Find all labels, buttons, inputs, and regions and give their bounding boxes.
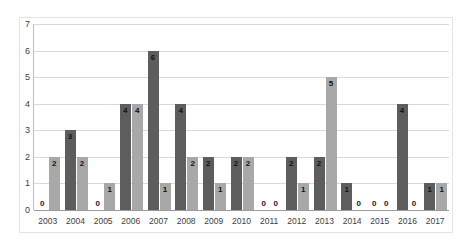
bar-value-label: 1 [160, 186, 171, 194]
bar-series-2-2013[interactable] [326, 77, 337, 210]
bar-group: 40 [396, 24, 420, 210]
x-axis: 2003200420052006200720082009201020112012… [34, 212, 449, 232]
bar-value-label: 1 [298, 186, 309, 194]
x-tick-label-2008: 2008 [173, 216, 200, 226]
plot-area: 023201446142212200212510004011 [34, 24, 449, 210]
bar-value-label: 3 [65, 133, 76, 141]
bar-group: 10 [340, 24, 364, 210]
bar-series-1-2016[interactable] [397, 104, 408, 210]
bar-value-label: 4 [397, 107, 408, 115]
bar-group: 01 [91, 24, 115, 210]
x-tick-label-2010: 2010 [228, 216, 255, 226]
y-tick-label: 5 [8, 73, 30, 82]
x-tick-label-2014: 2014 [339, 216, 366, 226]
bar-series-2-2006[interactable] [132, 104, 143, 210]
bars-layer: 023201446142212200212510004011 [34, 24, 449, 210]
bar-series-1-2007[interactable] [148, 51, 159, 210]
x-tick-label-2003: 2003 [34, 216, 61, 226]
bar-value-label: 2 [243, 160, 254, 168]
bar-value-label: 2 [286, 160, 297, 168]
bar-value-label: 0 [353, 200, 364, 208]
x-tick-label-2015: 2015 [366, 216, 393, 226]
bar-value-label: 2 [77, 160, 88, 168]
y-tick-label: 6 [8, 47, 30, 56]
bar-value-label: 4 [175, 107, 186, 115]
y-axis: 01234567 [4, 24, 30, 210]
bar-group: 02 [36, 24, 60, 210]
bar-value-label: 1 [424, 186, 435, 194]
bar-group: 61 [147, 24, 171, 210]
bar-group: 42 [174, 24, 198, 210]
y-tick-label: 2 [8, 153, 30, 162]
bar-series-1-2008[interactable] [175, 104, 186, 210]
bar-chart: 01234567 023201446142212200212510004011 … [0, 0, 467, 249]
bar-value-label: 1 [104, 186, 115, 194]
bar-group: 00 [368, 24, 392, 210]
bar-value-label: 2 [231, 160, 242, 168]
y-tick-label: 1 [8, 179, 30, 188]
bar-group: 32 [64, 24, 88, 210]
bar-value-label: 1 [436, 186, 447, 194]
x-tick-label-2005: 2005 [90, 216, 117, 226]
x-tick-label-2007: 2007 [145, 216, 172, 226]
y-tick-label: 4 [8, 100, 30, 109]
x-tick-label-2013: 2013 [311, 216, 338, 226]
x-tick-label-2016: 2016 [394, 216, 421, 226]
x-tick-label-2017: 2017 [422, 216, 449, 226]
bar-group: 11 [423, 24, 447, 210]
y-tick-label: 3 [8, 126, 30, 135]
bar-value-label: 1 [341, 186, 352, 194]
bar-value-label: 0 [270, 200, 281, 208]
x-tick-label-2006: 2006 [117, 216, 144, 226]
bar-value-label: 2 [203, 160, 214, 168]
bar-series-1-2004[interactable] [65, 130, 76, 210]
bar-value-label: 2 [314, 160, 325, 168]
bar-group: 25 [313, 24, 337, 210]
bar-value-label: 6 [148, 54, 159, 62]
bar-value-label: 0 [258, 200, 269, 208]
bar-value-label: 1 [215, 186, 226, 194]
bar-series-1-2006[interactable] [120, 104, 131, 210]
bar-value-label: 4 [132, 107, 143, 115]
bar-value-label: 5 [326, 80, 337, 88]
bar-group: 21 [202, 24, 226, 210]
x-tick-label-2011: 2011 [256, 216, 283, 226]
bar-group: 00 [257, 24, 281, 210]
bar-value-label: 0 [381, 200, 392, 208]
bar-group: 22 [230, 24, 254, 210]
x-tick-label-2004: 2004 [62, 216, 89, 226]
bar-value-label: 0 [37, 200, 48, 208]
bar-value-label: 2 [187, 160, 198, 168]
x-tick-label-2012: 2012 [283, 216, 310, 226]
bar-group: 44 [119, 24, 143, 210]
bar-value-label: 4 [120, 107, 131, 115]
bar-value-label: 0 [92, 200, 103, 208]
bar-value-label: 2 [49, 160, 60, 168]
bar-value-label: 0 [409, 200, 420, 208]
axis-baseline [34, 210, 449, 211]
bar-value-label: 0 [369, 200, 380, 208]
y-tick-label: 7 [8, 20, 30, 29]
y-tick-label: 0 [8, 206, 30, 215]
bar-group: 21 [285, 24, 309, 210]
x-tick-label-2009: 2009 [200, 216, 227, 226]
